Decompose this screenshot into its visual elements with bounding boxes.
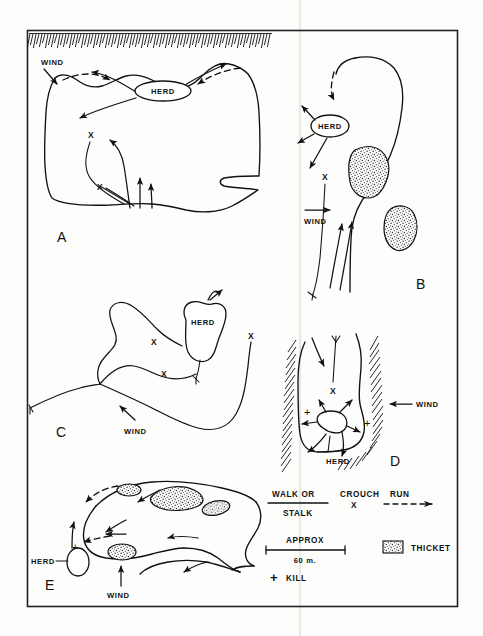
thicket-swatch-icon bbox=[383, 541, 403, 553]
legend-thicket-label: THICKET bbox=[411, 544, 451, 553]
panel-label-c: C bbox=[56, 424, 66, 440]
x-marker-c-2: X bbox=[161, 369, 167, 379]
herd-label-b: HERD bbox=[318, 122, 342, 131]
legend-walk-or-label: WALK OR bbox=[272, 490, 315, 499]
thicket-e-1 bbox=[117, 484, 141, 496]
wind-label-d: WIND bbox=[416, 400, 439, 409]
wind-label-b: WIND bbox=[304, 217, 327, 226]
legend-scale-distance: 60 m. bbox=[294, 556, 316, 565]
legend-kill-label: KILL bbox=[286, 574, 307, 583]
kill-marker-d-2: + bbox=[364, 417, 371, 429]
herd-label-a: HERD bbox=[151, 87, 175, 96]
thicket-e-4 bbox=[108, 544, 136, 560]
legend-approx-label: APPROX bbox=[286, 536, 324, 545]
legend-kill-symbol: + bbox=[270, 570, 278, 585]
hunting-strategy-figure: WIND X X HERD A bbox=[0, 0, 483, 636]
wind-label-c: WIND bbox=[124, 427, 147, 436]
legend-run-label: RUN bbox=[390, 490, 410, 499]
panel-label-b: B bbox=[416, 276, 425, 292]
legend-crouch-symbol: X bbox=[351, 501, 357, 510]
wind-label-a: WIND bbox=[41, 58, 64, 67]
legend-crouch-label: CROUCH bbox=[340, 490, 380, 499]
legend-stalk-label: STALK bbox=[283, 509, 313, 518]
herd-label-d: HERD bbox=[326, 457, 350, 466]
herd-label-c: HERD bbox=[191, 318, 215, 327]
panel-label-e: E bbox=[45, 577, 54, 593]
panel-label-a: A bbox=[57, 229, 67, 245]
thicket-b-2 bbox=[384, 206, 417, 251]
figure-root: WIND X X HERD A bbox=[0, 0, 483, 636]
panel-label-d: D bbox=[390, 453, 400, 469]
herd-ellipse-e bbox=[67, 548, 89, 576]
herd-group-b: HERD bbox=[311, 115, 349, 137]
x-marker-a-2: X bbox=[97, 182, 103, 192]
x-marker-d-1: X bbox=[330, 386, 336, 396]
wind-label-e: WIND bbox=[107, 591, 130, 600]
kill-marker-d-1: + bbox=[304, 406, 311, 418]
herd-group-a: HERD bbox=[135, 81, 191, 101]
x-marker-c-3: X bbox=[248, 331, 254, 341]
herd-label-e: HERD bbox=[31, 557, 55, 566]
x-marker-b-1: X bbox=[322, 172, 328, 182]
x-marker-c-1: X bbox=[151, 337, 157, 347]
x-marker-a-1: X bbox=[88, 130, 94, 140]
